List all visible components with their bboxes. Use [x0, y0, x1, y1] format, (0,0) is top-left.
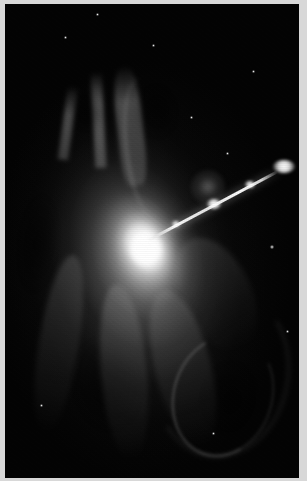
jet-knot-middle: [207, 199, 221, 209]
relativistic-jet: [5, 4, 299, 478]
jet-knot-outer: [245, 181, 255, 188]
jet-knot-inner: [172, 221, 180, 227]
astronomy-image-figure: Grayscale astronomical image of an ellip…: [0, 0, 307, 481]
sky-canvas: [5, 4, 299, 478]
jet-knot-terminal: [273, 160, 295, 173]
